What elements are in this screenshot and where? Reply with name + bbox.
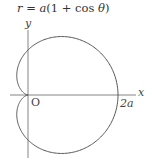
cardioid-plot: r = a(1 + cos θ) y x O 2a — [0, 0, 154, 161]
annotation-2a: 2a — [119, 97, 134, 110]
y-axis-label: y — [24, 17, 32, 30]
origin-label: O — [31, 96, 40, 109]
chart-title: r = a(1 + cos θ) — [17, 1, 109, 15]
x-axis-label: x — [138, 86, 145, 99]
